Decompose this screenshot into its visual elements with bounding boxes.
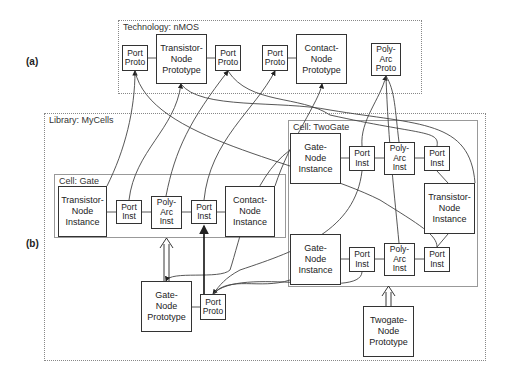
contact-node-instance[interactable]: Contact- Node Instance [225, 186, 275, 237]
contact-node-prototype[interactable]: Contact- Node Prototype [296, 34, 347, 84]
gate-node-instance-2[interactable]: Gate- Node Instance [290, 234, 341, 285]
port-inst-a[interactable]: Port Inst [349, 146, 375, 171]
port-inst-c[interactable]: Port Inst [349, 247, 375, 272]
port-proto-1[interactable]: Port Proto [122, 45, 148, 71]
gate-node-instance-1[interactable]: Gate- Node Instance [290, 133, 341, 184]
transistor-node-instance[interactable]: Transistor- Node Instance [58, 186, 107, 237]
transistor-node-instance-2[interactable]: Transistor- Node Instance [424, 183, 475, 234]
port-inst-1[interactable]: Port Inst [116, 200, 142, 224]
poly-arc-proto[interactable]: Poly- Arc Proto [371, 43, 401, 76]
gate-node-prototype[interactable]: Gate- Node Prototype [141, 281, 192, 332]
port-proto-lib[interactable]: Port Proto [200, 294, 226, 320]
poly-arc-inst-2[interactable]: Poly- Arc Inst [384, 243, 415, 276]
transistor-node-prototype[interactable]: Transistor- Node Prototype [156, 34, 207, 84]
port-proto-2[interactable]: Port Proto [215, 45, 241, 71]
twogate-node-prototype[interactable]: Twogate- Node Prototype [363, 306, 414, 357]
port-inst-d[interactable]: Port Inst [424, 247, 450, 272]
port-proto-3[interactable]: Port Proto [262, 45, 288, 71]
poly-arc-inst[interactable]: Poly- Arc Inst [151, 196, 182, 229]
port-inst-b[interactable]: Port Inst [424, 146, 450, 171]
port-inst-2[interactable]: Port Inst [191, 200, 217, 224]
poly-arc-inst-1[interactable]: Poly- Arc Inst [384, 142, 415, 175]
